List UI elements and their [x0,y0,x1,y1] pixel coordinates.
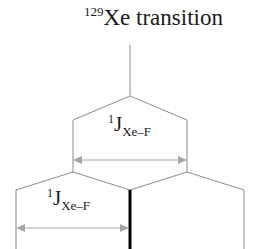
figure-title: 129Xe transition [84,6,223,29]
coupling-arrow-top-right-head [178,156,187,164]
title-text: Xe transition [104,5,223,30]
coupling-arrow-top-left-head [73,156,82,164]
coupling-arrow-top [73,156,187,164]
second-split-right-inner-branch [130,172,187,190]
second-split-right-outer-branch [187,172,244,190]
coupling-label-top-symbol: J [114,112,122,136]
coupling-arrow-bottom-left-head [16,224,25,232]
coupling-label-bottom: 1JXe–F [47,188,90,209]
coupling-label-bottom-symbol: J [53,186,61,210]
coupling-arrow-bottom-right-head [120,224,129,232]
coupling-label-top-nuclei: Xe–F [122,124,151,139]
title-mass-number-superscript: 129 [84,4,104,19]
coupling-label-top: 1JXe–F [108,114,151,135]
coupling-arrow-bottom [16,224,129,232]
coupling-label-bottom-nuclei: Xe–F [61,198,90,213]
nmr-splitting-tree-figure: 129Xe transition 1JXe–F 1JXe–F [0,0,265,249]
